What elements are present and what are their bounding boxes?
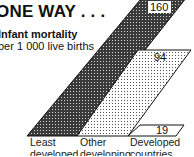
category-label-least-developed: Least developed countries (30, 137, 78, 156)
label-line: Developed (130, 137, 180, 149)
value-label-least: 160 (150, 1, 168, 13)
value-label-other: 94 (154, 51, 166, 63)
value-label-developed: 19 (156, 124, 168, 136)
category-label-other-developing: Other developing countries (80, 137, 131, 156)
label-line: Other (80, 137, 131, 149)
label-line: developing (80, 149, 131, 157)
label-line: developed (30, 149, 78, 157)
label-line: Least (30, 137, 78, 149)
category-label-developed: Developed countries (130, 137, 180, 156)
chart-area: 160 94 19 (0, 0, 194, 156)
label-line: countries (130, 149, 180, 157)
